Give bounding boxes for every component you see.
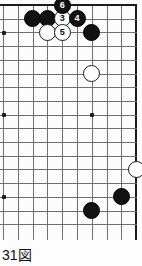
black-stone	[83, 202, 100, 219]
grid-line-horizontal	[0, 60, 137, 61]
white-stone	[128, 161, 142, 178]
go-board: 3465	[0, 0, 142, 240]
grid-line-vertical	[33, 5, 34, 240]
stone-move-number: 5	[60, 27, 65, 36]
board-edge-line-vertical	[135, 5, 137, 240]
grid-line-vertical	[77, 5, 78, 240]
grid-line-horizontal	[0, 87, 137, 88]
grid-line-horizontal	[0, 183, 137, 184]
grid-line-horizontal	[0, 211, 137, 212]
black-stone-move-6: 6	[54, 0, 71, 14]
grid-line-vertical	[18, 5, 19, 240]
stone-move-number: 6	[60, 0, 65, 9]
grid-line-vertical	[107, 5, 108, 240]
grid-line-horizontal	[0, 128, 137, 129]
white-stone-move-5: 5	[54, 24, 71, 41]
star-point	[2, 195, 6, 199]
grid-line-horizontal	[0, 74, 137, 75]
white-stone	[83, 65, 100, 82]
stone-move-number: 4	[74, 14, 79, 23]
grid-line-horizontal	[0, 156, 137, 157]
black-stone-move-4: 4	[69, 10, 86, 27]
grid-line-vertical	[3, 5, 4, 240]
star-point	[2, 31, 6, 35]
go-diagram-figure: 3465 31図	[0, 0, 142, 266]
star-point	[90, 113, 94, 117]
grid-line-horizontal	[0, 224, 137, 225]
grid-line-horizontal	[0, 46, 137, 47]
star-point	[2, 113, 6, 117]
grid-line-horizontal	[0, 101, 137, 102]
grid-line-horizontal	[0, 169, 137, 170]
figure-caption: 31図	[2, 244, 32, 264]
grid-line-horizontal	[0, 142, 137, 143]
grid-line-horizontal	[0, 115, 137, 116]
black-stone	[83, 24, 100, 41]
figure-number: 31	[2, 247, 18, 263]
black-stone	[113, 188, 130, 205]
figure-suffix: 図	[18, 247, 32, 263]
stone-move-number: 3	[60, 14, 65, 23]
